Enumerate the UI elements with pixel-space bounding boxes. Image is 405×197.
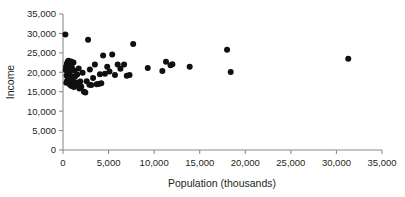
y-tick-label: 20,000	[27, 67, 56, 78]
chart-svg: 05,00010,00015,00020,00025,00030,00035,0…	[0, 0, 405, 197]
x-tick-label: 5,000	[97, 157, 121, 168]
data-point	[77, 79, 83, 85]
data-point	[88, 82, 94, 88]
data-point	[145, 65, 151, 71]
y-tick-label: 15,000	[27, 86, 56, 97]
data-point	[92, 62, 98, 68]
data-point	[121, 62, 127, 68]
x-tick-label: 15,000	[185, 157, 214, 168]
x-tick-label: 25,000	[276, 157, 305, 168]
data-point	[85, 37, 91, 43]
data-point	[87, 67, 93, 73]
x-axis-tick-marks	[63, 150, 382, 154]
data-point	[169, 61, 175, 67]
data-point	[80, 70, 86, 76]
data-point	[127, 72, 133, 78]
data-point	[112, 72, 118, 78]
y-axis-tick-labels: 05,00010,00015,00020,00025,00030,00035,0…	[27, 8, 56, 155]
data-point	[78, 84, 84, 90]
x-tick-label: 35,000	[367, 157, 396, 168]
data-point	[74, 72, 80, 78]
y-tick-label: 10,000	[27, 106, 56, 117]
data-point	[106, 69, 112, 75]
data-point	[62, 32, 68, 38]
data-points-group	[62, 32, 351, 96]
x-tick-label: 10,000	[140, 157, 169, 168]
x-axis-tick-labels: 05,00010,00015,00020,00025,00030,00035,0…	[60, 157, 396, 168]
y-axis-title: Income	[4, 65, 16, 100]
data-point	[345, 56, 351, 62]
data-point	[100, 53, 106, 59]
y-tick-label: 30,000	[27, 28, 56, 39]
x-axis-title: Population (thousands)	[168, 177, 276, 189]
data-point	[109, 51, 115, 57]
y-tick-label: 35,000	[27, 8, 56, 19]
data-point	[90, 75, 96, 81]
data-point	[130, 41, 136, 47]
y-tick-label: 5,000	[32, 125, 56, 136]
x-tick-label: 20,000	[231, 157, 260, 168]
data-point	[98, 80, 104, 86]
data-point	[228, 69, 234, 75]
x-tick-label: 0	[60, 157, 65, 168]
y-tick-label: 0	[51, 144, 56, 155]
x-tick-label: 30,000	[322, 157, 351, 168]
data-point	[224, 47, 230, 53]
y-tick-label: 25,000	[27, 47, 56, 58]
data-point	[70, 60, 76, 66]
data-point	[187, 64, 193, 70]
data-point	[82, 89, 88, 95]
data-point	[159, 68, 165, 74]
scatter-chart-figure: 05,00010,00015,00020,00025,00030,00035,0…	[0, 0, 405, 197]
